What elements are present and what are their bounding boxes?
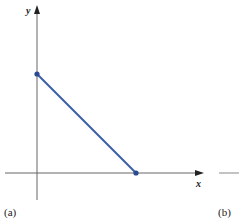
x-axis-label: x [196,178,201,189]
line-segment [37,74,136,173]
x-axis-arrow-icon [195,170,204,176]
panel-b-label: (b) [218,206,231,218]
panel-a-label: (a) [4,206,16,218]
y-intercept-point [34,71,39,76]
x-intercept-point [133,170,138,175]
y-axis-label: y [26,5,30,16]
y-axis-arrow-icon [34,5,40,14]
diagram-canvas [0,0,239,224]
